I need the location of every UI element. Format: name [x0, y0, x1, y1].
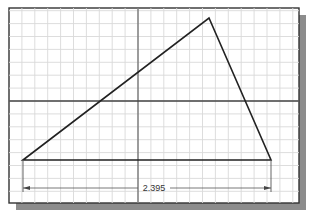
dimension-value: 2.395 [143, 183, 166, 193]
sketch-canvas[interactable]: 2.395 [0, 0, 310, 220]
drawing-frame [9, 8, 299, 203]
